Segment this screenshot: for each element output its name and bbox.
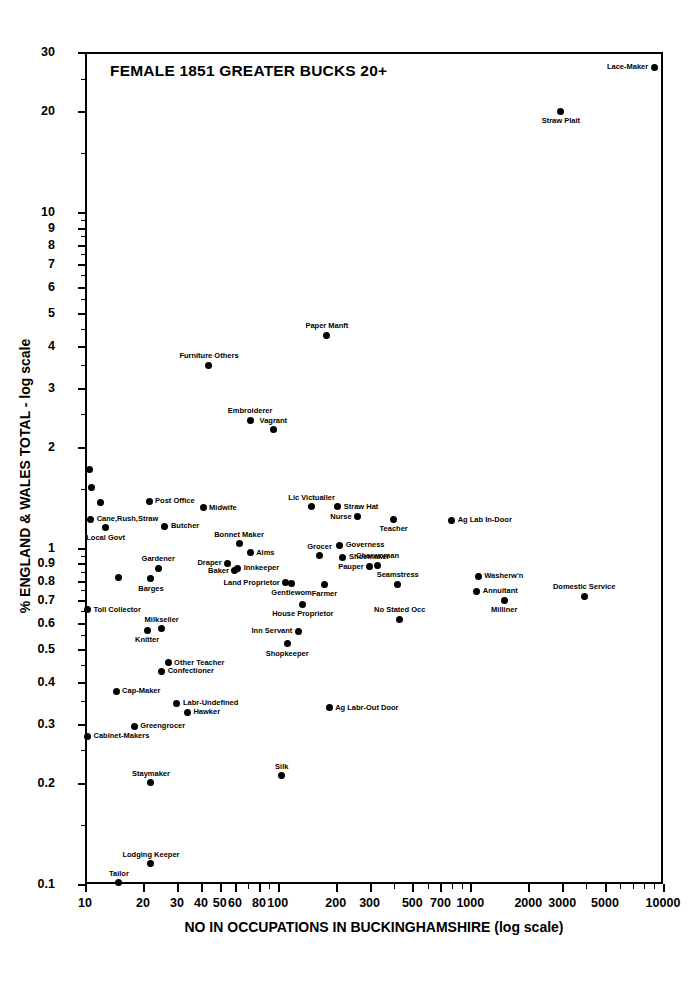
x-tick-minor — [633, 884, 634, 889]
x-tick-mark — [412, 884, 414, 892]
x-tick-label: 30 — [170, 896, 184, 910]
x-axis-title: NO IN OCCUPATIONS IN BUCKINGHAMSHIRE (lo… — [85, 919, 663, 935]
y-tick-mark — [78, 346, 85, 348]
x-tick-minor — [654, 884, 655, 889]
x-tick-label: 1000 — [456, 896, 484, 910]
y-tick-mark — [78, 884, 85, 886]
y-tick-mark — [78, 600, 85, 602]
x-tick-label: 10000 — [646, 896, 681, 910]
y-tick-mark — [78, 623, 85, 625]
x-tick-minor — [269, 884, 270, 889]
x-tick-label: 10 — [78, 896, 92, 910]
x-tick-label: 40 — [194, 896, 208, 910]
y-tick-mark — [78, 111, 85, 113]
x-tick-minor — [452, 884, 453, 889]
chart-title: FEMALE 1851 GREATER BUCKS 20+ — [110, 62, 387, 80]
x-tick-mark — [440, 884, 442, 892]
x-tick-mark — [605, 884, 607, 892]
x-tick-label: 100 — [267, 896, 288, 910]
x-tick-mark — [370, 884, 372, 892]
y-tick-label: 10 — [0, 205, 55, 219]
x-tick-minor — [586, 884, 587, 889]
x-tick-mark — [528, 884, 530, 892]
x-tick-label: 200 — [325, 896, 346, 910]
y-tick-mark — [78, 548, 85, 550]
plot-area — [85, 52, 663, 884]
y-tick-mark — [78, 287, 85, 289]
x-tick-mark — [220, 884, 222, 892]
x-tick-label: 3000 — [548, 896, 576, 910]
x-tick-mark — [259, 884, 261, 892]
x-tick-minor — [462, 884, 463, 889]
y-tick-mark — [78, 313, 85, 315]
y-tick-label: 0.1 — [0, 877, 55, 891]
y-tick-mark — [78, 563, 85, 565]
x-tick-mark — [235, 884, 237, 892]
x-tick-label: 60 — [228, 896, 242, 910]
y-axis-title: % ENGLAND & WALES TOTAL - log scale — [17, 266, 33, 686]
x-tick-mark — [562, 884, 564, 892]
x-tick-mark — [85, 884, 87, 892]
y-tick-mark — [78, 682, 85, 684]
y-tick-label: 20 — [0, 104, 55, 118]
y-tick-mark — [78, 245, 85, 247]
chart-figure: FEMALE 1851 GREATER BUCKS 20+ % ENGLAND … — [0, 0, 698, 983]
x-tick-label: 80 — [252, 896, 266, 910]
x-tick-mark — [201, 884, 203, 892]
y-tick-label: 30 — [0, 45, 55, 59]
x-tick-minor — [620, 884, 621, 889]
y-tick-mark — [78, 228, 85, 230]
y-tick-mark — [78, 649, 85, 651]
y-tick-label: 0.2 — [0, 776, 55, 790]
x-tick-mark — [278, 884, 280, 892]
y-tick-mark — [78, 264, 85, 266]
x-tick-label: 300 — [359, 896, 380, 910]
x-tick-mark — [336, 884, 338, 892]
x-tick-label: 2000 — [514, 896, 542, 910]
y-tick-mark — [78, 212, 85, 214]
x-tick-label: 50 — [213, 896, 227, 910]
x-tick-minor — [428, 884, 429, 889]
x-tick-label: 500 — [402, 896, 423, 910]
x-tick-label: 700 — [430, 896, 451, 910]
x-tick-label: 5000 — [591, 896, 619, 910]
y-tick-mark — [78, 447, 85, 449]
x-tick-mark — [470, 884, 472, 892]
y-tick-mark — [78, 581, 85, 583]
x-tick-minor — [394, 884, 395, 889]
y-tick-mark — [78, 724, 85, 726]
y-tick-mark — [78, 388, 85, 390]
x-tick-mark — [177, 884, 179, 892]
y-tick-mark — [78, 52, 85, 54]
y-tick-label: 0.3 — [0, 717, 55, 731]
x-tick-mark — [143, 884, 145, 892]
y-tick-label: 9 — [0, 221, 55, 235]
x-tick-minor — [248, 884, 249, 889]
x-tick-mark — [663, 884, 665, 892]
x-tick-minor — [644, 884, 645, 889]
y-tick-label: 8 — [0, 238, 55, 252]
x-tick-label: 20 — [136, 896, 150, 910]
y-tick-mark — [78, 783, 85, 785]
